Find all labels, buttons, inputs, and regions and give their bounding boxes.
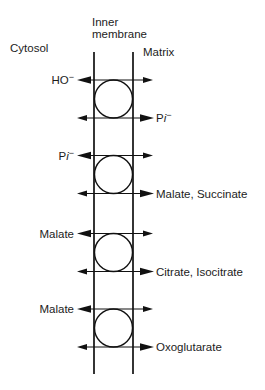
arrowhead-left-icon	[77, 269, 87, 275]
matrix-species-label: Pi−	[156, 110, 172, 124]
arrowhead-right-icon	[143, 231, 153, 237]
arrowhead-right-icon	[140, 190, 154, 198]
arrowhead-right-icon	[143, 306, 153, 312]
arrowhead-left-icon	[77, 191, 87, 197]
arrowhead-right-icon	[140, 343, 154, 351]
carrier-protein-circle	[95, 309, 133, 347]
cytosol-species-label: Malate	[39, 303, 74, 315]
matrix-species-label: Oxoglutarate	[156, 341, 222, 353]
arrowhead-left-icon	[77, 152, 91, 160]
transporters-group: HO−Pi−Pi−Malate, SuccinateMalateCitrate,…	[39, 72, 247, 353]
arrowhead-left-icon	[77, 305, 91, 313]
arrowhead-right-icon	[143, 153, 153, 159]
arrowhead-left-icon	[77, 344, 87, 350]
diagram-svg: Cytosol Inner membrane Matrix HO−Pi−Pi−M…	[0, 0, 265, 390]
cytosol-species-label: HO−	[51, 72, 74, 86]
matrix-label: Matrix	[143, 46, 175, 58]
carrier-protein-circle	[95, 156, 133, 194]
transporter: HO−Pi−	[51, 72, 171, 124]
matrix-species-label: Citrate, Isocitrate	[156, 266, 243, 278]
inner-membrane-label-line2: membrane	[92, 28, 147, 40]
arrowhead-left-icon	[77, 76, 91, 84]
carrier-protein-circle	[95, 234, 133, 272]
transporter: MalateCitrate, Isocitrate	[39, 228, 242, 278]
transporter: MalateOxoglutarate	[39, 303, 221, 353]
mitochondrial-transport-diagram: Cytosol Inner membrane Matrix HO−Pi−Pi−M…	[0, 0, 265, 390]
carrier-protein-circle	[95, 80, 133, 118]
cytosol-species-label: Pi−	[59, 148, 75, 162]
arrowhead-right-icon	[140, 114, 154, 122]
arrowhead-left-icon	[77, 230, 91, 238]
arrowhead-left-icon	[77, 115, 87, 121]
transporter: Pi−Malate, Succinate	[59, 148, 248, 200]
matrix-species-label: Malate, Succinate	[156, 188, 247, 200]
arrowhead-right-icon	[143, 77, 153, 83]
cytosol-label: Cytosol	[10, 42, 48, 54]
cytosol-species-label: Malate	[39, 228, 74, 240]
arrowhead-right-icon	[140, 268, 154, 276]
inner-membrane-label-line1: Inner	[92, 16, 118, 28]
